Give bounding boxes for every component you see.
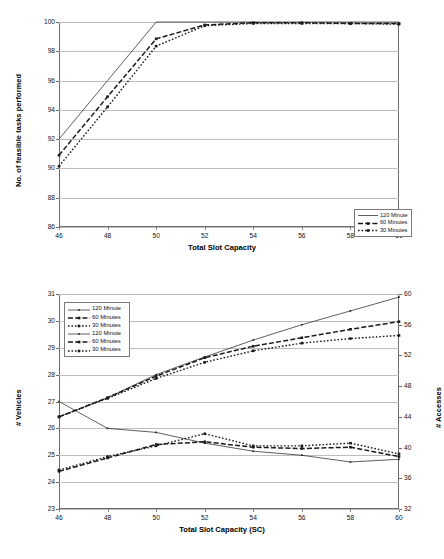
y-axis-title-top: No. of feasible tasks performed <box>14 73 23 186</box>
figure-page: 86889092949698100 4648505254565860 No. o… <box>0 0 444 559</box>
legend-label: 120 Minute <box>92 330 121 337</box>
data-point <box>398 458 400 460</box>
legend-item: 60 Minutes <box>357 219 408 226</box>
legend-item: 30 Minutes <box>67 346 126 354</box>
data-point <box>106 106 109 109</box>
data-point <box>203 432 206 435</box>
legend-key-icon <box>67 314 91 321</box>
data-point <box>301 336 304 339</box>
data-point <box>155 375 158 378</box>
data-point <box>398 453 401 456</box>
data-point <box>252 445 255 448</box>
data-point <box>398 334 401 337</box>
legend-label: 60 Minutes <box>380 219 407 226</box>
legend-label: 60 Minutes <box>92 314 121 321</box>
data-point <box>398 455 401 458</box>
data-point <box>301 342 304 345</box>
legend-item: 60 Minutes <box>67 338 126 346</box>
data-point <box>106 397 109 400</box>
data-point <box>252 339 254 341</box>
data-point <box>350 461 352 463</box>
data-point <box>252 450 254 452</box>
data-point <box>398 320 401 323</box>
y-axis-right-title: # Accesses <box>434 387 443 428</box>
legend-key-icon <box>357 227 379 234</box>
legend-item: 120 Minute <box>67 330 126 338</box>
data-point <box>58 165 61 168</box>
series-line <box>59 22 399 139</box>
series-line <box>59 23 399 166</box>
legend-label: 60 Minutes <box>92 338 121 345</box>
data-point <box>58 154 61 157</box>
chart-vehicles-accesses: 232425262728293031 3236404448525660 4648… <box>0 278 444 559</box>
data-point <box>301 454 303 456</box>
data-point <box>349 442 352 445</box>
legend-key-icon <box>67 347 91 354</box>
legend-label: 30 Minutes <box>92 322 121 329</box>
data-point <box>203 24 206 27</box>
data-point <box>252 345 255 348</box>
legend-label: 120 Minute <box>92 305 121 312</box>
data-point <box>58 401 60 403</box>
data-point <box>155 432 157 434</box>
data-point <box>106 95 109 98</box>
legend-key-icon <box>67 330 91 337</box>
data-point <box>252 22 255 25</box>
data-point <box>349 328 352 331</box>
data-point <box>349 22 352 25</box>
legend-item: 60 Minutes <box>67 313 126 321</box>
legend-item: 120 Minute <box>357 212 408 219</box>
data-point <box>58 416 61 419</box>
data-point <box>155 377 158 380</box>
legend-top: 120 Minute60 Minutes30 Minutes <box>354 209 412 237</box>
data-point <box>349 446 352 449</box>
series-line <box>59 434 399 470</box>
data-point <box>155 45 158 48</box>
x-axis-title-bottom: Total Slot Capacity (SC) <box>0 525 444 534</box>
series-line <box>59 23 399 156</box>
data-point <box>58 469 61 472</box>
legend-label: 30 Minutes <box>92 346 121 353</box>
data-point <box>301 324 303 326</box>
data-point <box>203 356 206 359</box>
data-point <box>155 445 158 448</box>
legend-item: 120 Minute <box>67 305 126 313</box>
legend-key-icon <box>357 212 379 219</box>
data-point <box>203 441 206 444</box>
data-point <box>155 38 158 41</box>
legend-label: 120 Minute <box>380 212 408 219</box>
y-axis-left-title: # Vehicles <box>14 389 23 426</box>
series-line <box>59 402 399 462</box>
data-point <box>301 22 304 25</box>
data-point <box>350 310 352 312</box>
legend-bottom: 120 Minute60 Minutes30 Minutes120 Minute… <box>64 302 130 357</box>
data-point <box>301 445 304 448</box>
legend-key-icon <box>357 220 379 227</box>
legend-label: 30 Minutes <box>380 227 407 234</box>
legend-key-icon <box>67 338 91 345</box>
data-point <box>301 447 304 450</box>
data-point <box>398 23 401 26</box>
data-point <box>398 296 400 298</box>
data-point <box>349 337 352 340</box>
chart-feasible-tasks: 86889092949698100 4648505254565860 No. o… <box>0 0 444 278</box>
legend-item: 30 Minutes <box>67 321 126 329</box>
data-point <box>106 455 109 458</box>
data-point <box>107 428 109 430</box>
legend-key-icon <box>67 322 91 329</box>
data-point <box>203 361 206 364</box>
legend-item: 30 Minutes <box>357 227 408 234</box>
legend-key-icon <box>67 306 91 313</box>
data-point <box>252 350 255 353</box>
x-axis-title-top: Total Slot Capacity <box>0 243 444 252</box>
